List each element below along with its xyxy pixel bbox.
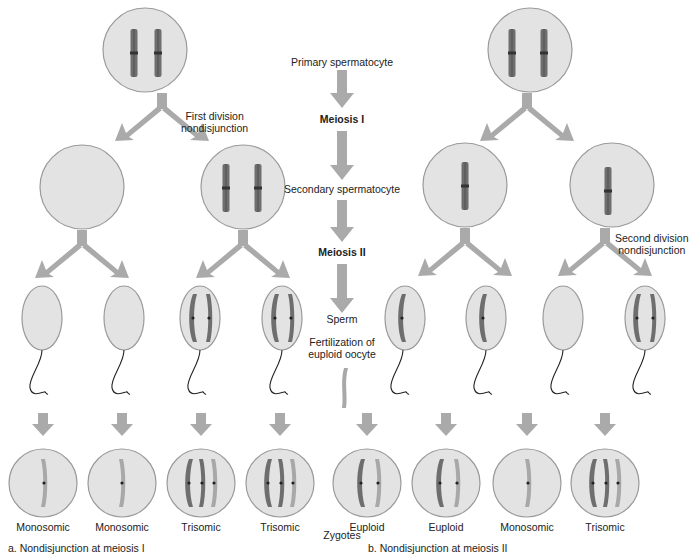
zygote-label: Trisomic <box>585 521 624 533</box>
annotation-line: nondisjunction <box>181 122 248 134</box>
caption-panel-b: b. Nondisjunction at meiosis II <box>368 542 507 554</box>
label-meiosis-2: Meiosis II <box>318 246 365 258</box>
zygote-label: Monosomic <box>500 521 554 533</box>
fertilization-line: euploid oocyte <box>308 348 376 360</box>
zygote-label: Trisomic <box>260 521 299 533</box>
zygote-label: Monosomic <box>16 521 70 533</box>
label-fertilization: Fertilization of euploid oocyte <box>308 336 376 360</box>
primary-spermatocyte-cell-a <box>103 8 187 92</box>
label-primary-spermatocyte: Primary spermatocyte <box>291 56 393 68</box>
label-secondary-spermatocyte: Secondary spermatocyte <box>284 183 400 195</box>
label-sperm: Sperm <box>327 313 358 325</box>
annotation-line: Second division <box>615 232 689 244</box>
nondisjunction-diagram <box>0 0 700 556</box>
zygote-label: Euploid <box>428 521 463 533</box>
secondary-spermatocyte-a <box>201 145 285 229</box>
panel-a <box>9 8 314 517</box>
label-meiosis-1: Meiosis I <box>320 113 364 125</box>
annotation-line: First division <box>181 110 248 122</box>
second-division-annotation: Second division nondisjunction <box>615 232 689 256</box>
zygote-label: Euploid <box>349 521 384 533</box>
annotation-line: nondisjunction <box>615 244 689 256</box>
zygote-label: Monosomic <box>95 521 149 533</box>
oocyte-chromosome <box>342 368 348 408</box>
zygote-label: Trisomic <box>181 521 220 533</box>
panel-b <box>333 8 665 517</box>
secondary-spermatocyte-empty-a <box>40 145 124 229</box>
fertilization-line: Fertilization of <box>308 336 376 348</box>
first-division-annotation: First division nondisjunction <box>181 110 248 134</box>
caption-panel-a: a. Nondisjunction at meiosis I <box>8 542 145 554</box>
